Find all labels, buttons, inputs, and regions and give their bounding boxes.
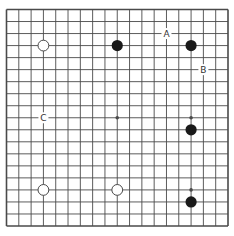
black-stone — [185, 196, 196, 207]
labels-layer: ABC — [38, 28, 208, 123]
star-point — [189, 188, 193, 192]
white-stone — [112, 185, 123, 196]
star-point — [115, 116, 119, 120]
point-label-a: A — [163, 29, 170, 39]
black-stone — [112, 40, 123, 51]
go-board: ABC — [0, 0, 234, 236]
black-stone — [185, 40, 196, 51]
white-stone — [38, 185, 49, 196]
black-stone — [185, 124, 196, 135]
star-point — [189, 116, 193, 120]
point-label-b: B — [200, 65, 206, 75]
point-label-c: C — [40, 113, 46, 123]
white-stone — [38, 40, 49, 51]
